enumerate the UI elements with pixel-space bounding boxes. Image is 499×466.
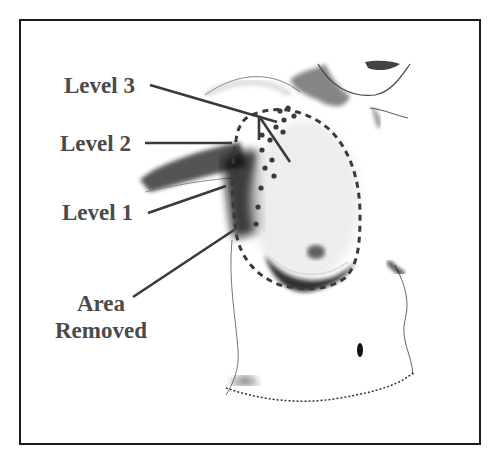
label-level-3: Level 3 [64,72,135,99]
mouth [365,61,400,70]
label-area-removed: Area Removed [44,290,158,344]
torso-right-outline [395,265,413,375]
torso-left-outline [226,240,238,395]
label-area: Area [44,290,158,317]
breast-area [250,120,360,280]
anatomical-illustration [0,0,499,466]
leader-level1 [148,186,226,213]
waistband [226,372,414,401]
label-removed: Removed [44,317,158,344]
label-level-1: Level 1 [62,199,133,226]
nipple [307,245,325,259]
leader-area-removed [133,230,234,297]
navel [357,343,363,357]
neck-shading [290,64,350,106]
label-level-2: Level 2 [60,130,131,157]
